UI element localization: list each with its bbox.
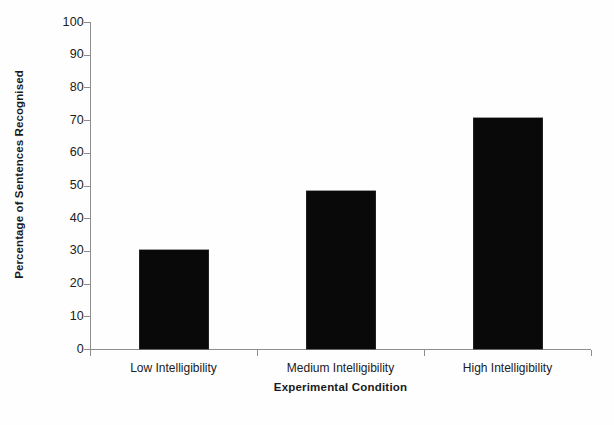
y-axis-tick-label: 30: [40, 244, 84, 257]
y-axis-tick-label: 0: [40, 343, 84, 356]
x-axis-tick-label: Medium Intelligibility: [257, 360, 424, 376]
plot-area: [90, 22, 591, 349]
bar[interactable]: [473, 118, 542, 349]
y-axis-tick-label: 70: [40, 114, 84, 127]
y-axis-tick-label: 60: [40, 146, 84, 159]
y-axis-tick-label: 40: [40, 212, 84, 225]
y-axis-tick-label: 90: [40, 48, 84, 61]
y-axis-tick-label: 20: [40, 277, 84, 290]
bar[interactable]: [306, 191, 375, 349]
bar-chart-figure: Percentage of Sentences Recognised 01020…: [0, 0, 614, 425]
bar[interactable]: [139, 250, 208, 349]
x-axis-tick-label-group: Low IntelligibilityMedium Intelligibilit…: [90, 360, 591, 378]
y-axis-title: Percentage of Sentences Recognised: [8, 0, 30, 349]
y-axis-tick-label-group: 0102030405060708090100: [40, 22, 84, 349]
bar-slot: [424, 22, 591, 349]
y-axis-tick-label: 100: [40, 16, 84, 29]
bar-slot: [90, 22, 257, 349]
x-axis-tick-label: Low Intelligibility: [90, 360, 257, 376]
x-axis-tick-label: High Intelligibility: [424, 360, 591, 376]
x-axis-title: Experimental Condition: [90, 381, 591, 393]
y-axis-tick-label: 10: [40, 310, 84, 323]
x-axis-line: [90, 349, 591, 350]
x-axis-tick-mark: [424, 350, 425, 356]
x-axis-tick-mark: [257, 350, 258, 356]
x-axis-tick-mark: [90, 350, 91, 356]
x-axis-tick-mark: [591, 350, 592, 356]
y-axis-tick-label: 80: [40, 81, 84, 94]
bar-slot: [257, 22, 424, 349]
y-axis-tick-label: 50: [40, 179, 84, 192]
